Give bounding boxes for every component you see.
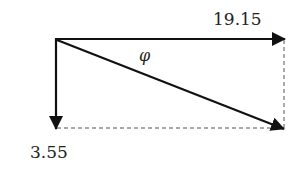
vertical-magnitude-label: 3.55 — [30, 142, 68, 162]
horizontal-magnitude-label: 19.15 — [213, 9, 262, 29]
angle-phi-label: φ — [139, 46, 151, 65]
vector-diagram: 19.15 3.55 φ — [0, 0, 302, 179]
resultant-vector — [57, 40, 284, 129]
